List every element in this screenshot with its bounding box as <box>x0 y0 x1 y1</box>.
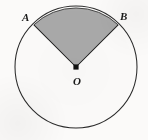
geometry-figure: A B O <box>0 0 148 140</box>
point-label-a: A <box>22 12 29 23</box>
center-label-o: O <box>73 76 81 87</box>
center-point-marker <box>73 64 78 69</box>
point-label-b: B <box>120 11 127 22</box>
